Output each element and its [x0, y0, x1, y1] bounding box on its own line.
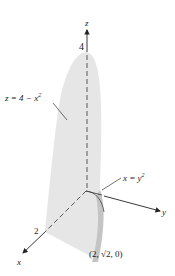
- y-axis: [104, 196, 160, 211]
- leader-side-surface: [102, 178, 121, 190]
- point-label: (2, √2, 0): [89, 249, 122, 259]
- solid-region: [45, 52, 104, 262]
- top-surface: [45, 52, 101, 260]
- x-tick-2: 2: [34, 226, 39, 236]
- diagram-canvas: z 4 y x 2 z = 4 − x2 x = y2 (2, √2, 0): [0, 0, 175, 276]
- z-axis-label: z: [84, 18, 89, 28]
- x-axis-label: x: [16, 257, 21, 267]
- top-surface-equation: z = 4 − x2: [4, 92, 41, 103]
- side-surface-equation: x = y2: [122, 172, 145, 183]
- y-axis-label: y: [161, 207, 166, 217]
- z-tick-4: 4: [79, 41, 84, 52]
